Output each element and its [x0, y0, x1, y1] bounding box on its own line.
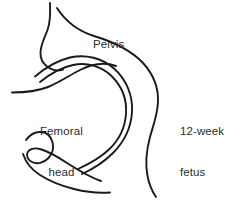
label-fetus-line2: fetus [180, 166, 224, 180]
label-12-week-fetus: 12-week fetus [180, 98, 224, 206]
fetal-hip-anatomy-diagram: Pelvis Femoral head 12-week fetus [0, 0, 245, 209]
label-fetus-line1: 12-week [180, 125, 224, 139]
label-femoral-head: Femoral head [40, 98, 83, 206]
label-femoral-head-line1: Femoral [40, 125, 83, 139]
label-pelvis: Pelvis [93, 38, 124, 52]
label-femoral-head-line2: head [40, 166, 83, 180]
